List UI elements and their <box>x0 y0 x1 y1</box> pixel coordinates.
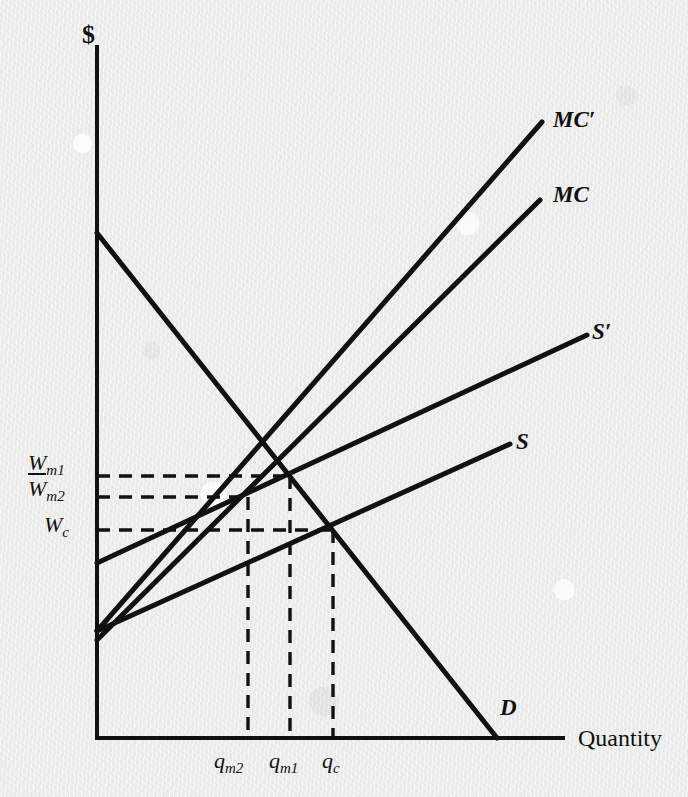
y-axis-title: $ <box>82 22 95 48</box>
x-tick-qc-sub: c <box>333 760 340 776</box>
x-tick-qm1-sub: m1 <box>280 760 298 776</box>
y-tick-wm2-sub: m2 <box>46 488 64 504</box>
y-tick-wm1-base: W <box>28 450 46 475</box>
y-tick-wc-base: W <box>44 512 62 537</box>
axes-group <box>95 45 565 738</box>
x-axis-title: Quantity <box>578 726 662 750</box>
y-tick-label-wm2: Wm2 <box>28 478 65 504</box>
curve-label-s-prime: S′ <box>592 320 611 343</box>
y-tick-label-wc: Wc <box>44 514 69 540</box>
x-tick-qm2-base: q <box>214 748 225 773</box>
marginal-cost-curve <box>97 200 540 640</box>
x-tick-label-qc: qc <box>322 750 340 776</box>
y-tick-wm1-sub: m1 <box>46 462 64 478</box>
y-tick-wc-sub: c <box>62 524 69 540</box>
x-tick-qm2-sub: m2 <box>225 760 243 776</box>
supply-curve <box>97 444 510 631</box>
curves-group <box>97 122 587 738</box>
curve-label-mc: MC <box>553 183 589 206</box>
demand-curve <box>97 233 497 738</box>
curve-label-mc-prime: MC′ <box>553 108 595 131</box>
x-tick-qm1-base: q <box>269 748 280 773</box>
marginal-cost-shifted-curve <box>97 122 542 631</box>
x-tick-label-qm2: qm2 <box>214 750 243 776</box>
y-tick-wm2-base: W <box>28 473 46 501</box>
curve-label-d: D <box>500 696 517 719</box>
x-tick-label-qm1: qm1 <box>269 750 298 776</box>
x-tick-qc-base: q <box>322 748 333 773</box>
curve-label-s: S <box>516 430 529 453</box>
